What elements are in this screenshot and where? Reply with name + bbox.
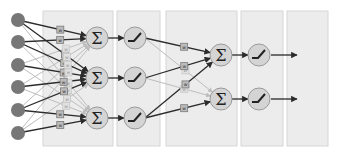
svg-text:w: w <box>182 45 186 50</box>
svg-text:w: w <box>182 64 186 69</box>
svg-text:w: w <box>64 104 68 109</box>
input-node-4 <box>11 80 25 94</box>
weight-box: w <box>181 63 188 70</box>
layer-panel-5 <box>287 11 328 146</box>
input-node-5 <box>11 103 25 117</box>
input-node-6 <box>11 126 25 140</box>
sum-node-l1-3: Σ <box>86 107 108 129</box>
weight-box: w <box>182 81 189 88</box>
weight-box: w <box>57 121 64 128</box>
weight-box: w <box>57 111 64 118</box>
sigma-icon: Σ <box>91 29 102 48</box>
input-node-3 <box>11 58 25 72</box>
sum-node-l1-2: Σ <box>86 67 108 89</box>
svg-text:w: w <box>62 89 66 94</box>
weight-box: w <box>65 69 72 76</box>
input-node-2 <box>11 35 25 49</box>
input-node-1 <box>11 13 25 27</box>
svg-text:w: w <box>58 112 62 117</box>
weight-box: w <box>63 45 70 52</box>
activation-node-l1-2 <box>124 67 146 89</box>
weight-box: w <box>181 43 188 50</box>
layer-panel-3 <box>166 11 237 146</box>
svg-text:w: w <box>58 123 62 128</box>
layer-panel-4 <box>241 11 283 146</box>
activation-node-l2-1 <box>248 44 270 66</box>
svg-text:w: w <box>58 38 62 43</box>
neural-network-diagram: wwwwwwwwwwwwwwwwwwwwwwww ΣΣΣΣΣ <box>0 0 339 156</box>
weight-box: w <box>57 26 64 33</box>
svg-text:w: w <box>67 70 71 75</box>
weight-box: w <box>57 36 64 43</box>
svg-text:w: w <box>184 82 188 87</box>
weight-box: w <box>181 105 188 112</box>
sum-node-l2-1: Σ <box>210 44 232 66</box>
sum-node-l2-2: Σ <box>210 88 232 110</box>
weight-box: w <box>61 88 68 95</box>
weight-box: w <box>63 102 70 109</box>
svg-text:w: w <box>182 106 186 111</box>
sigma-icon: Σ <box>91 69 102 88</box>
svg-text:w: w <box>65 55 69 60</box>
sigma-icon: Σ <box>215 46 226 65</box>
activation-node-l1-3 <box>124 107 146 129</box>
sigma-icon: Σ <box>91 109 102 128</box>
activation-node-l2-2 <box>248 88 270 110</box>
svg-text:w: w <box>62 80 66 85</box>
weight-box: w <box>63 95 70 102</box>
weight-box: w <box>64 61 71 68</box>
sum-node-l1-1: Σ <box>86 27 108 49</box>
svg-text:w: w <box>64 47 68 52</box>
sigma-icon: Σ <box>215 90 226 109</box>
activation-node-l1-1 <box>124 27 146 49</box>
svg-text:w: w <box>65 97 69 102</box>
svg-text:w: w <box>66 63 70 68</box>
svg-text:w: w <box>58 28 62 33</box>
weight-box: w <box>60 78 67 85</box>
weight-box: w <box>63 53 70 60</box>
